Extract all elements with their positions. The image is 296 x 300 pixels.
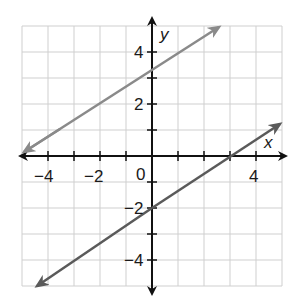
upper-line-tail	[24, 129, 60, 152]
y-axis-label: y	[159, 25, 170, 44]
x-tick-label-neg2: −2	[84, 167, 103, 186]
y-tick-label-neg4: −4	[124, 251, 143, 270]
y-tick-label-4: 4	[134, 43, 143, 62]
lower-line	[152, 124, 280, 208]
x-tick-label-4: 4	[249, 167, 258, 186]
y-tick-label-neg2: −2	[124, 199, 143, 218]
x-axis-label: x	[263, 133, 273, 152]
coordinate-graph: y x −4 −2 0 4 4 2 −2 −4	[0, 0, 296, 300]
y-tick-label-2: 2	[134, 95, 143, 114]
x-tick-label-neg4: −4	[34, 167, 53, 186]
lower-line-tail	[37, 208, 152, 286]
origin-label: 0	[136, 165, 145, 184]
